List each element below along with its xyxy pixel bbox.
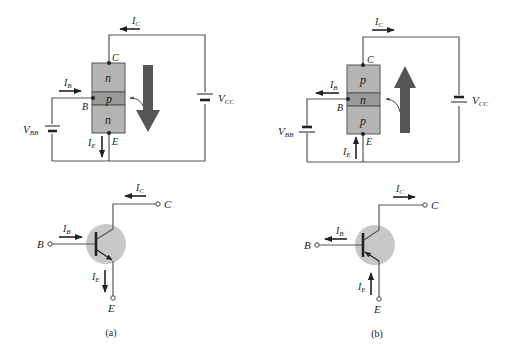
panel-a-npn-circuit: VBB VCC n p n C B E IC IB IE <box>23 15 234 161</box>
base-label: B <box>304 239 311 251</box>
collector-node <box>107 61 111 65</box>
hole-flow-arrow-up-icon <box>394 66 416 133</box>
base-label: B <box>337 102 343 113</box>
vbb-label: VBB <box>278 125 294 139</box>
emitter-node <box>361 132 365 136</box>
electron-flow-arrow-down-icon <box>136 65 160 132</box>
pnp-transistor-symbol: B C E IC IB IE (b) <box>304 183 439 340</box>
vcc-battery-icon <box>197 94 213 100</box>
collector-lead <box>97 204 157 239</box>
ie-label: IE <box>91 271 100 284</box>
base-label: B <box>37 238 44 250</box>
emitter-label: E <box>107 302 115 314</box>
recombination-curved-arrow-icon <box>386 99 400 112</box>
ib-label: IB <box>335 225 344 238</box>
collector-label: C <box>164 198 172 210</box>
vcc-label: VCC <box>218 92 234 106</box>
ic-label: IC <box>131 15 140 28</box>
ib-label: IB <box>63 77 72 90</box>
vbb-battery-icon <box>299 127 315 132</box>
emitter-node <box>107 131 111 135</box>
caption-a: (a) <box>105 327 116 339</box>
top-layer-label: p <box>359 73 366 87</box>
emitter-label: E <box>111 136 118 147</box>
top-layer-label: n <box>105 71 111 85</box>
middle-layer-label: n <box>360 93 366 107</box>
emitter-label: E <box>365 136 372 147</box>
bottom-layer-label: p <box>359 114 366 128</box>
ie-label: IE <box>87 137 96 150</box>
ie-label: IE <box>357 281 366 294</box>
base-terminal <box>315 243 319 247</box>
ic-label: IC <box>135 182 144 195</box>
bottom-layer-label: n <box>105 113 111 127</box>
ic-label: IC <box>395 183 404 196</box>
base-node <box>346 97 350 101</box>
collector-terminal <box>423 203 427 207</box>
base-terminal <box>48 242 52 246</box>
vcc-battery-icon <box>451 97 467 102</box>
emitter-label: E <box>373 303 381 315</box>
caption-b: (b) <box>371 328 383 340</box>
recombination-curved-arrow-icon <box>130 98 143 106</box>
collector-label: C <box>112 52 119 63</box>
vbb-battery-icon <box>45 126 60 131</box>
emitter-terminal <box>111 296 115 300</box>
ib-label: IB <box>62 223 71 236</box>
ic-label: IC <box>374 16 383 29</box>
panel-b-pnp-circuit: VBB VCC p n p C B E IC IB IE <box>278 16 488 162</box>
collector-label: C <box>367 54 374 65</box>
base-node <box>91 96 95 100</box>
collector-terminal <box>156 202 160 206</box>
ie-label: IE <box>342 146 351 159</box>
ib-label: IB <box>329 79 338 92</box>
middle-layer-label: p <box>105 92 112 106</box>
collector-label: C <box>431 199 439 211</box>
vcc-label: VCC <box>472 94 488 108</box>
vbb-label: VBB <box>23 123 39 137</box>
emitter-terminal <box>377 297 381 301</box>
collector-node <box>361 63 365 67</box>
base-label: B <box>82 101 88 112</box>
npn-transistor-symbol: B C E IC IB IE (a) <box>37 182 172 339</box>
